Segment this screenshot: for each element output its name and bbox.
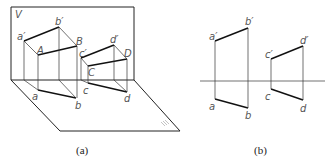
line-AB-space <box>38 46 77 55</box>
label-A: A <box>36 45 44 56</box>
projector <box>24 41 38 55</box>
label-a: a <box>32 91 38 102</box>
figure-a: V a′ b′ A B a b c′ d′ C D c d (a) <box>11 7 180 157</box>
caption-a: (a) <box>76 144 89 157</box>
line-ab-v-projection <box>24 27 59 41</box>
h-plane-hatch <box>161 120 169 126</box>
line-ab-h-projection <box>38 90 76 98</box>
b-line-cd-v <box>271 46 303 59</box>
b-label-a-prime: a′ <box>209 31 218 42</box>
label-c-prime: c′ <box>79 48 87 59</box>
line-CD-space <box>88 59 127 66</box>
projection-diagram: V a′ b′ A B a b c′ d′ C D c d (a) a′ b′ … <box>0 0 330 166</box>
label-b: b <box>75 100 81 111</box>
label-d: d <box>124 93 131 104</box>
h-plane <box>11 80 180 131</box>
b-label-d: d <box>300 103 307 114</box>
projector <box>81 58 88 66</box>
label-d-prime: d′ <box>110 34 119 45</box>
projector <box>59 27 77 46</box>
label-D: D <box>124 48 132 59</box>
plane-v-label: V <box>15 9 23 20</box>
label-B: B <box>76 36 83 47</box>
line-cd-h-projection <box>88 83 127 92</box>
b-line-ab-v <box>215 28 248 41</box>
b-label-c-prime: c′ <box>265 49 273 60</box>
label-C: C <box>88 67 95 78</box>
b-line-ab-h <box>215 99 248 108</box>
figure-b: a′ b′ a b c′ d′ c d (b) <box>200 16 325 157</box>
caption-b: (b) <box>254 144 267 157</box>
b-label-b-prime: b′ <box>245 16 254 27</box>
label-c: c <box>83 85 89 96</box>
b-label-c: c <box>265 91 271 102</box>
label-b-prime: b′ <box>55 16 64 27</box>
projector <box>24 80 38 90</box>
b-label-b: b <box>245 110 251 121</box>
b-line-cd-h <box>271 89 303 100</box>
b-label-a: a <box>209 101 215 112</box>
label-a-prime: a′ <box>17 31 26 42</box>
b-label-d-prime: d′ <box>300 35 309 46</box>
